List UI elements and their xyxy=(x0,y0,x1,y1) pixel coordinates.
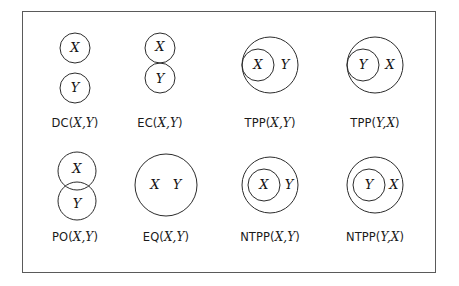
ntpp-yx-caption: NTPP(Y,X) xyxy=(320,230,430,244)
eq-diagram: X Y xyxy=(111,140,221,232)
tpp-xy-diagram: X Y xyxy=(215,20,325,112)
ec-caption-args: X,Y xyxy=(157,116,178,130)
ec-diagram: X Y xyxy=(105,20,215,112)
eq-circle-xy xyxy=(135,154,197,216)
tpp-yx-caption: TPP(Y,X) xyxy=(320,116,430,130)
po-caption-suffix: ) xyxy=(93,230,98,244)
relation-cell-tpp-xy: X Y TPP(X,Y) xyxy=(215,20,325,130)
eq-caption: EQ(X,Y) xyxy=(111,230,221,244)
dc-caption-prefix: DC( xyxy=(52,116,74,130)
tpp-xy-caption-prefix: TPP( xyxy=(245,116,271,130)
relation-cells-container: X Y DC(X,Y) X Y EC(X,Y) xyxy=(0,0,459,286)
tpp-yx-diagram: Y X xyxy=(320,20,430,112)
ntpp-xy-label-y: Y xyxy=(285,177,295,192)
tpp-yx-label-x: X xyxy=(384,57,395,72)
ntpp-yx-label-y: Y xyxy=(365,177,375,192)
dc-label-y: Y xyxy=(71,80,81,95)
eq-caption-args: X,Y xyxy=(164,230,185,244)
tpp-yx-caption-prefix: TPP( xyxy=(350,116,376,130)
dc-caption-args: X,Y xyxy=(73,116,94,130)
tpp-xy-caption-args: X,Y xyxy=(270,116,291,130)
ntpp-xy-caption-args: X,Y xyxy=(275,230,296,244)
tpp-xy-label-y: Y xyxy=(281,57,291,72)
eq-caption-suffix: ) xyxy=(185,230,190,244)
tpp-yx-caption-suffix: ) xyxy=(395,116,400,130)
tpp-xy-label-x: X xyxy=(252,57,263,72)
relation-cell-ntpp-yx: Y X NTPP(Y,X) xyxy=(320,140,430,250)
ntpp-xy-caption-prefix: NTPP( xyxy=(240,230,274,244)
tpp-xy-circle-y xyxy=(242,37,298,93)
ntpp-xy-caption-suffix: ) xyxy=(295,230,300,244)
rcc8-figure: X Y DC(X,Y) X Y EC(X,Y) xyxy=(0,0,459,286)
relation-cell-tpp-yx: Y X TPP(Y,X) xyxy=(320,20,430,130)
ec-label-x: X xyxy=(154,39,165,54)
ntpp-xy-diagram: X Y xyxy=(215,140,325,232)
dc-caption-suffix: ) xyxy=(94,116,99,130)
eq-caption-prefix: EQ( xyxy=(143,230,164,244)
po-label-y: Y xyxy=(73,196,83,211)
relation-cell-ec: X Y EC(X,Y) xyxy=(105,20,215,130)
eq-label-y: Y xyxy=(173,177,183,192)
ntpp-yx-caption-args: Y,X xyxy=(380,230,399,244)
ntpp-yx-caption-prefix: NTPP( xyxy=(346,230,380,244)
ec-caption-suffix: ) xyxy=(178,116,183,130)
tpp-xy-caption: TPP(X,Y) xyxy=(215,116,325,130)
ntpp-yx-diagram: Y X xyxy=(320,140,430,232)
tpp-yx-caption-args: Y,X xyxy=(376,116,395,130)
po-label-x: X xyxy=(71,161,82,176)
tpp-xy-caption-suffix: ) xyxy=(291,116,296,130)
eq-label-x: X xyxy=(149,177,160,192)
ntpp-xy-caption: NTPP(X,Y) xyxy=(215,230,325,244)
relation-cell-eq: X Y EQ(X,Y) xyxy=(111,140,221,250)
relation-cell-ntpp-xy: X Y NTPP(X,Y) xyxy=(215,140,325,250)
ec-label-y: Y xyxy=(156,71,166,86)
dc-label-x: X xyxy=(69,40,80,55)
tpp-yx-label-y: Y xyxy=(359,57,369,72)
ec-caption: EC(X,Y) xyxy=(105,116,215,130)
ntpp-yx-caption-suffix: ) xyxy=(399,230,404,244)
po-caption-args: X,Y xyxy=(73,230,94,244)
ec-caption-prefix: EC( xyxy=(137,116,157,130)
ntpp-xy-label-x: X xyxy=(258,177,269,192)
po-caption-prefix: PO( xyxy=(52,230,73,244)
ntpp-yx-label-x: X xyxy=(388,177,399,192)
